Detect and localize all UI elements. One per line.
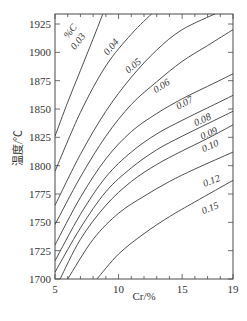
y-axis-tick-labels: 1700172517501775180018251850187519001925 — [29, 18, 52, 285]
y-tick-label: 1775 — [29, 188, 52, 200]
y-tick-label: 1875 — [29, 75, 52, 87]
x-tick-label: 10 — [113, 283, 125, 295]
y-tick-label: 1825 — [29, 131, 52, 143]
curve-label: 0.15 — [200, 199, 220, 216]
carbon-curve-0.15 — [97, 180, 233, 279]
x-tick-label: 15 — [177, 283, 189, 295]
curve-label: 0.06 — [151, 76, 172, 95]
curve-labels: %C0.030.040.050.060.070.080.090.100.120.… — [61, 21, 221, 216]
y-axis-title: 温度/℃ — [11, 130, 24, 166]
y-tick-label: 1800 — [29, 160, 52, 172]
curve-label: 0.05 — [123, 56, 143, 76]
y-tick-label: 1725 — [29, 245, 52, 257]
y-tick-label: 1700 — [29, 273, 52, 285]
curve-label: 0.07 — [174, 93, 195, 111]
y-tick-label: 1750 — [29, 216, 52, 228]
x-tick-label: 5 — [52, 283, 58, 295]
carbon-curve-0.07 — [55, 74, 233, 245]
x-axis-title: Cr/% — [132, 290, 155, 302]
chart: 5101519 17001725175017751800182518501875… — [0, 0, 247, 321]
curve-label: 0.12 — [201, 172, 221, 189]
carbon-curve-0.12 — [68, 152, 233, 279]
curve-label: 0.08 — [192, 111, 213, 128]
curve-label: 0.04 — [101, 36, 121, 56]
y-tick-label: 1900 — [29, 46, 52, 58]
y-tick-label: 1925 — [29, 18, 52, 30]
x-tick-label: 19 — [228, 283, 240, 295]
y-tick-label: 1850 — [29, 103, 52, 115]
